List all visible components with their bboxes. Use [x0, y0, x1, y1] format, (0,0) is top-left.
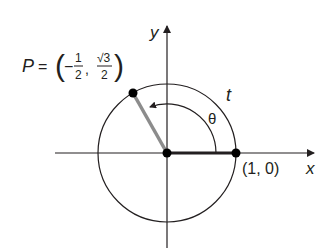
arc-length-label: t [226, 85, 232, 105]
point-p [129, 89, 138, 98]
y-axis-label: y [149, 23, 160, 42]
svg-text:−: − [64, 58, 73, 75]
unit-circle-diagram: y x (1, 0) t θ P = ( − 1 2 , √3 2 ) [0, 0, 334, 250]
svg-text:=: = [38, 58, 47, 75]
svg-text:P: P [22, 56, 34, 76]
x-axis-label: x [305, 159, 315, 178]
point-a-label: (1, 0) [242, 160, 279, 177]
angle-arc [150, 104, 216, 153]
svg-text:2: 2 [101, 68, 108, 82]
terminal-side [133, 93, 167, 153]
origin-point [163, 149, 172, 158]
point-p-label: P = ( − 1 2 , √3 2 ) [22, 49, 124, 82]
svg-text:2: 2 [75, 68, 82, 82]
point-a [232, 149, 241, 158]
angle-label: θ [208, 110, 216, 127]
svg-text:): ) [114, 49, 124, 82]
svg-text:,: , [85, 61, 89, 77]
svg-text:1: 1 [75, 51, 82, 65]
svg-text:√3: √3 [97, 51, 111, 65]
